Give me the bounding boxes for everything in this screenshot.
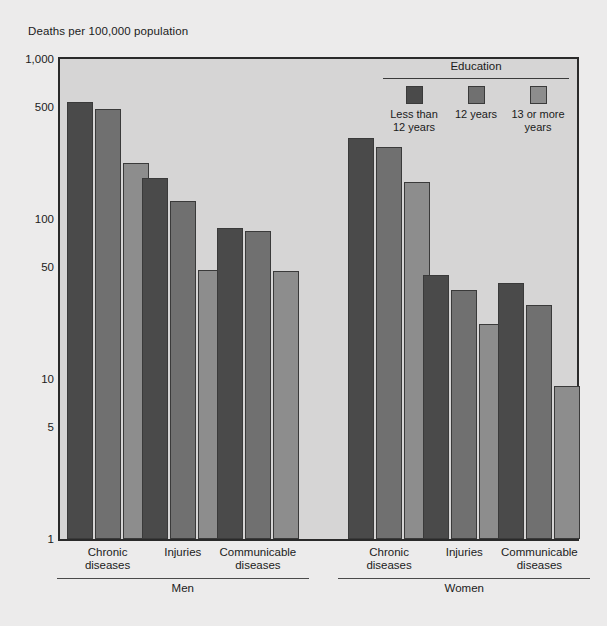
legend-item-label: 13 or more years bbox=[507, 108, 569, 133]
x-axis-category-label: Communicable diseases bbox=[484, 546, 594, 572]
y-axis-tick-label: 50 bbox=[41, 261, 54, 273]
chart-legend: Education Less than 12 years 12 years 13… bbox=[383, 60, 569, 145]
bar bbox=[170, 201, 196, 539]
bar bbox=[526, 305, 552, 539]
x-axis-group-divider bbox=[338, 578, 590, 579]
bar bbox=[245, 231, 271, 539]
legend-item-label: 12 years bbox=[445, 108, 507, 121]
y-axis-tick-label: 5 bbox=[48, 421, 54, 433]
bar bbox=[142, 178, 168, 539]
legend-title: Education bbox=[383, 60, 569, 72]
bar bbox=[423, 275, 449, 540]
bar bbox=[498, 283, 524, 539]
y-axis-tick-label: 500 bbox=[35, 101, 54, 113]
x-axis-group-label: Men bbox=[57, 582, 309, 594]
legend-item-label: Less than 12 years bbox=[383, 108, 445, 133]
x-axis-group-divider bbox=[57, 578, 309, 579]
bar bbox=[451, 290, 477, 539]
y-axis: 1510501005001,000 bbox=[8, 0, 54, 626]
bar bbox=[273, 271, 299, 539]
legend-swatch-icon bbox=[468, 86, 485, 104]
y-axis-tick-label: 1,000 bbox=[25, 53, 54, 65]
legend-item-13-or-more-years: 13 or more years bbox=[507, 86, 569, 133]
x-axis-group-label: Women bbox=[338, 582, 590, 594]
bar bbox=[554, 386, 580, 539]
bar bbox=[348, 138, 374, 539]
y-axis-tick-label: 1 bbox=[48, 533, 54, 545]
legend-item-less-than-12-years: Less than 12 years bbox=[383, 86, 445, 133]
y-axis-tick-label: 10 bbox=[41, 373, 54, 385]
legend-item-12-years: 12 years bbox=[445, 86, 507, 121]
legend-divider bbox=[383, 78, 569, 79]
legend-swatch-icon bbox=[530, 86, 547, 104]
legend-swatch-icon bbox=[406, 86, 423, 104]
bar bbox=[217, 228, 243, 539]
y-axis-tick-label: 100 bbox=[35, 213, 54, 225]
bar bbox=[67, 102, 93, 539]
bar bbox=[376, 147, 402, 539]
bar bbox=[95, 109, 121, 539]
x-axis-category-label: Communicable diseases bbox=[203, 546, 313, 572]
chart-figure: Deaths per 100,000 population 1510501005… bbox=[0, 0, 607, 626]
